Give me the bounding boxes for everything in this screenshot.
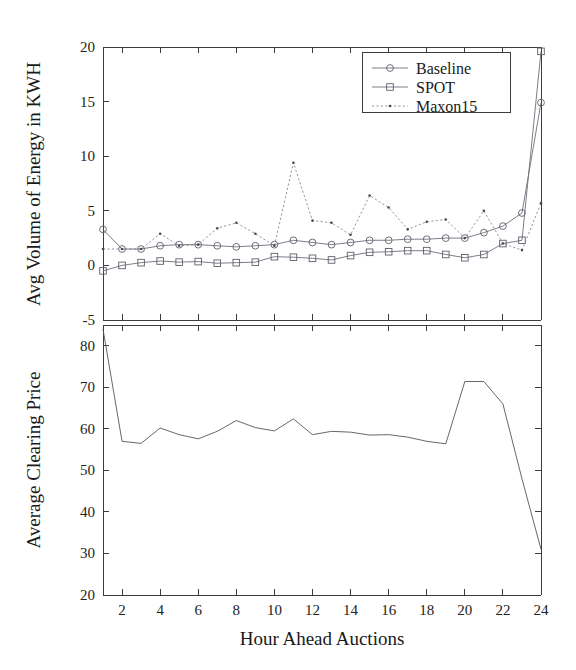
x-tick-label: 10 — [267, 602, 282, 618]
marker-maxon15 — [425, 220, 428, 223]
top-y-axis-label: Avg Volume of Energy in KWH — [23, 62, 44, 306]
bottom-x-axis: 24681012141618202224 — [118, 325, 549, 618]
x-tick-label: 14 — [343, 602, 359, 618]
y-tick-label: 20 — [80, 39, 95, 55]
marker-maxon15 — [216, 227, 219, 230]
marker-maxon15 — [178, 244, 181, 247]
marker-maxon15 — [406, 228, 409, 231]
bottom-y-axis: 20304050607080 — [80, 338, 541, 603]
marker-maxon15 — [330, 222, 333, 225]
marker-maxon15 — [387, 206, 390, 209]
y-tick-label: 15 — [80, 94, 95, 110]
legend-label: SPOT — [416, 79, 455, 96]
y-tick-label: 50 — [80, 462, 95, 478]
legend-label: Baseline — [416, 60, 471, 77]
legend-dot-icon — [389, 105, 392, 108]
x-tick-label: 4 — [156, 602, 164, 618]
x-tick-label: 8 — [233, 602, 241, 618]
top-y-axis: -505101520 — [80, 39, 109, 328]
series-line-maxon15 — [103, 163, 541, 250]
x-tick-label: 22 — [495, 602, 510, 618]
marker-maxon15 — [159, 232, 162, 235]
marker-maxon15 — [521, 249, 524, 252]
legend: BaselineSPOTMaxon15 — [362, 52, 510, 115]
marker-maxon15 — [254, 232, 257, 235]
marker-maxon15 — [140, 248, 143, 251]
y-tick-label: 60 — [80, 421, 95, 437]
legend-label: Maxon15 — [416, 98, 477, 115]
y-tick-label: 10 — [80, 148, 95, 164]
y-tick-label: -5 — [83, 312, 96, 328]
marker-maxon15 — [235, 222, 238, 225]
x-axis-label: Hour Ahead Auctions — [240, 628, 405, 649]
y-tick-label: 5 — [88, 203, 96, 219]
price-series-line — [103, 329, 541, 549]
marker-maxon15 — [102, 248, 105, 251]
top-panel: -505101520 Avg Volume of Energy in KWH B… — [23, 39, 544, 328]
marker-maxon15 — [197, 243, 200, 246]
x-tick-label: 20 — [457, 602, 472, 618]
bottom-panel: 20304050607080 24681012141618202224 Aver… — [23, 325, 549, 649]
y-tick-label: 40 — [80, 504, 95, 520]
marker-maxon15 — [273, 244, 276, 247]
x-tick-label: 6 — [194, 602, 202, 618]
y-tick-label: 70 — [80, 379, 95, 395]
marker-maxon15 — [540, 202, 543, 205]
marker-maxon15 — [121, 248, 124, 251]
marker-maxon15 — [292, 161, 295, 164]
figure-container: -505101520 Avg Volume of Energy in KWH B… — [0, 0, 576, 670]
y-tick-label: 30 — [80, 545, 95, 561]
x-tick-label: 24 — [534, 602, 550, 618]
y-tick-label: 80 — [80, 338, 95, 354]
marker-maxon15 — [464, 237, 467, 240]
marker-maxon15 — [349, 234, 352, 237]
marker-maxon15 — [368, 194, 371, 197]
bottom-panel-frame — [103, 325, 541, 595]
x-tick-label: 16 — [381, 602, 397, 618]
x-tick-label: 18 — [419, 602, 434, 618]
x-tick-label: 2 — [118, 602, 126, 618]
marker-maxon15 — [483, 210, 486, 213]
marker-maxon15 — [444, 218, 447, 221]
marker-maxon15 — [502, 242, 505, 245]
y-tick-label: 0 — [88, 257, 96, 273]
chart-svg: -505101520 Avg Volume of Energy in KWH B… — [0, 0, 576, 670]
bottom-series-group — [103, 329, 541, 549]
bottom-y-axis-label: Average Clearing Price — [23, 372, 44, 549]
y-tick-label: 20 — [80, 587, 95, 603]
series-line-baseline — [103, 103, 541, 249]
marker-maxon15 — [311, 219, 314, 222]
x-tick-label: 12 — [305, 602, 320, 618]
